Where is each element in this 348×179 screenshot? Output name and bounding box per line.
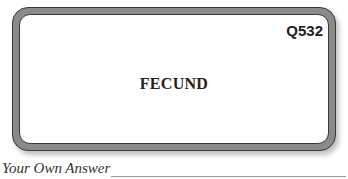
question-id: Q532: [286, 22, 323, 39]
answer-label: Your Own Answer: [2, 160, 111, 177]
vocabulary-word: FECUND: [20, 75, 328, 93]
answer-row: Your Own Answer: [2, 160, 346, 178]
flashcard: Q532 FECUND: [12, 7, 336, 151]
flashcard-body: Q532 FECUND: [19, 14, 329, 144]
answer-line[interactable]: [99, 176, 346, 177]
